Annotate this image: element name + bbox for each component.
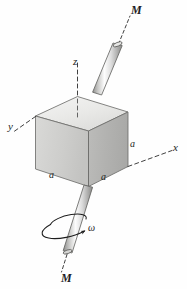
axis-x-line <box>128 151 172 167</box>
upper-shaft <box>93 16 130 95</box>
figure-canvas <box>0 0 187 289</box>
torque-line-bottom <box>62 255 68 273</box>
axis-label-x: x <box>173 142 178 153</box>
axis-label-y: y <box>8 121 13 132</box>
edge-label-a-front: a <box>101 172 106 182</box>
edge-label-a-left: a <box>49 170 54 180</box>
angular-velocity-label: ω <box>88 223 95 233</box>
torque-line-top <box>119 16 131 44</box>
mechanics-figure: M z y x a a a ω M <box>0 0 187 289</box>
axis-label-z: z <box>73 56 77 67</box>
edge-label-a-right: a <box>130 139 135 149</box>
axis-y-line <box>14 117 36 132</box>
torque-label-top: M <box>131 4 142 16</box>
upper-shaft-body <box>93 43 123 95</box>
lower-shaft-body <box>63 185 92 253</box>
torque-label-bottom: M <box>61 272 72 284</box>
